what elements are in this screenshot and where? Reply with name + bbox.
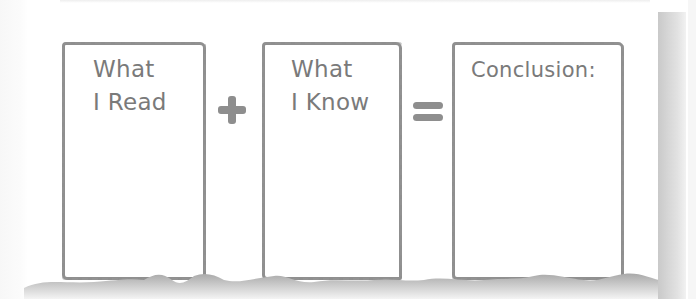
plus-icon <box>216 94 248 126</box>
page-left-margin <box>0 0 28 299</box>
what-i-know-box: What I Know <box>262 42 402 280</box>
what-i-read-label: What I Read <box>93 53 167 119</box>
page-right-shadow <box>658 12 686 299</box>
torn-paper-bottom-shadow <box>24 258 666 299</box>
what-i-know-label: What I Know <box>291 53 369 119</box>
equals-icon <box>413 102 443 122</box>
what-i-read-box: What I Read <box>62 42 206 280</box>
conclusion-box: Conclusion: <box>452 42 624 280</box>
page-right-edge <box>688 0 696 299</box>
page-top-edge <box>60 0 650 3</box>
worksheet-page: What I Read What I Know Conclusion: <box>0 0 696 299</box>
conclusion-label: Conclusion: <box>471 54 596 87</box>
